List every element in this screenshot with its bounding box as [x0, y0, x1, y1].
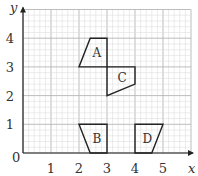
x-tick-label: 4	[131, 161, 139, 176]
x-tick-label: 1	[47, 161, 55, 176]
shape-c: C	[107, 67, 135, 96]
y-tick-label: 4	[6, 31, 14, 46]
y-tick-label: 1	[6, 117, 14, 132]
axes: x y 0	[9, 0, 196, 176]
y-tick-label: 3	[6, 60, 14, 75]
x-tick-label: 2	[75, 161, 83, 176]
shape-label: A	[91, 46, 101, 60]
shape-label: C	[117, 71, 126, 85]
shape-label: B	[92, 132, 101, 146]
shape-label: D	[142, 132, 152, 146]
x-tick-labels: 12345	[47, 161, 167, 176]
shape-b: B	[79, 124, 107, 153]
coordinate-grid-diagram: x y 0 12345 1234 ABCD	[0, 0, 198, 176]
x-tick-label: 5	[159, 161, 167, 176]
y-tick-label: 2	[6, 89, 14, 104]
x-axis-label: x	[188, 161, 196, 176]
y-axis-label: y	[9, 0, 18, 15]
y-tick-labels: 1234	[6, 31, 14, 132]
x-tick-label: 3	[103, 161, 111, 176]
shape-d: D	[135, 124, 163, 153]
origin-label: 0	[12, 150, 20, 165]
shape-a: A	[79, 38, 107, 67]
